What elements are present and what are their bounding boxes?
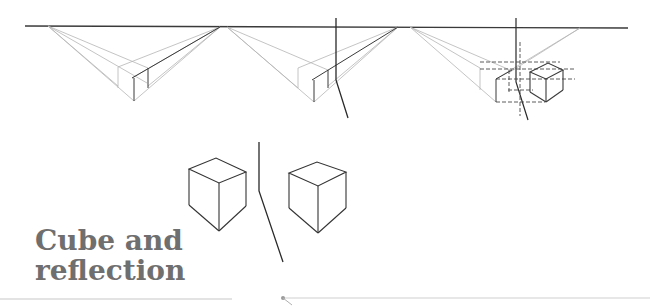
- bottom-rule-tick: [283, 298, 292, 305]
- figure-3-construction: [410, 27, 580, 102]
- figure-2-mirror-line: [336, 18, 348, 118]
- title-line-1: Cube and: [35, 226, 185, 256]
- figure-2-construction: [227, 27, 398, 102]
- figure-3-dashed-reflection: [480, 42, 575, 116]
- title-line-2: reflection: [35, 256, 185, 286]
- horizon-line: [25, 26, 628, 28]
- cube-original: [189, 158, 246, 231]
- figure-3-box-left: [496, 70, 512, 102]
- section-title: Cube and reflection: [35, 226, 185, 286]
- cube-pair-mirror-line: [259, 142, 283, 262]
- cube-reflection: [289, 162, 346, 233]
